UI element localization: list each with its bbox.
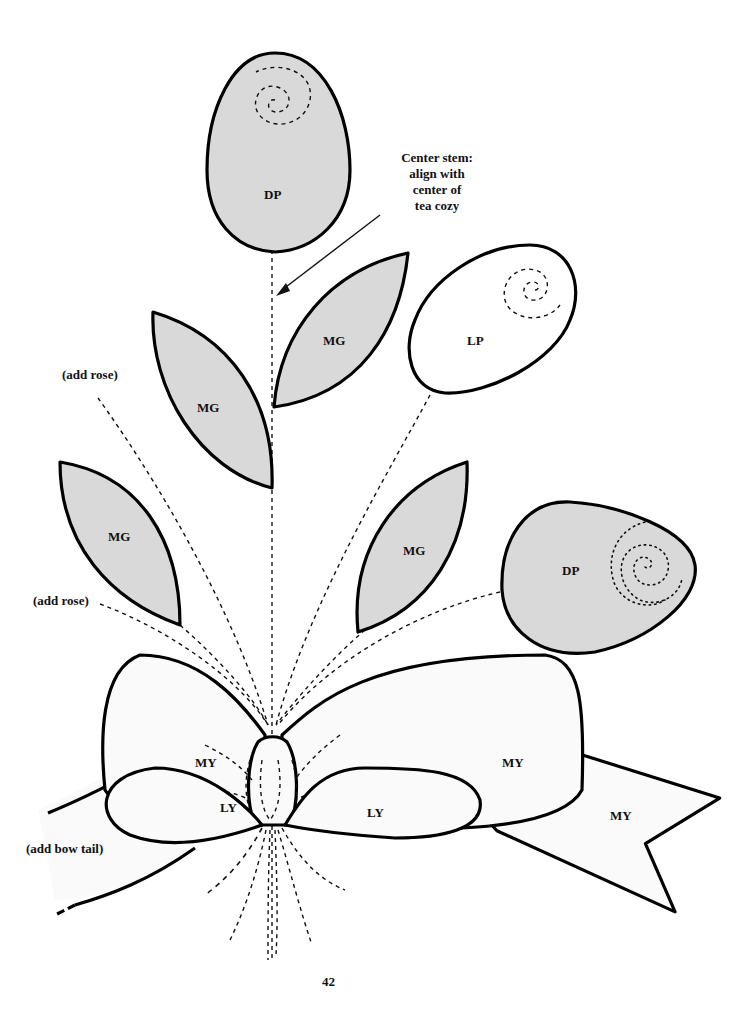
pattern-diagram: DP MG MG LP MG MG DP MY	[0, 0, 740, 1033]
bow-radiating-guides	[205, 828, 345, 960]
page-number: 42	[322, 974, 335, 989]
center-stem-note: Center stem: align with center of tea co…	[401, 150, 473, 213]
svg-text:LP: LP	[467, 333, 484, 348]
add-rose-note-1: (add rose)	[62, 367, 118, 382]
rose-light-lp: LP	[409, 245, 576, 393]
svg-text:MG: MG	[403, 543, 425, 558]
applique-pattern-page: DP MG MG LP MG MG DP MY	[0, 0, 740, 1033]
rose-top-dp: DP	[207, 53, 350, 252]
svg-text:align with: align with	[409, 166, 465, 181]
svg-text:MG: MG	[108, 529, 130, 544]
svg-text:MY: MY	[502, 755, 524, 770]
svg-text:MG: MG	[197, 400, 219, 415]
leaf-upper-right-mg: MG	[274, 253, 408, 407]
svg-text:center of: center of	[413, 182, 462, 197]
svg-text:Center stem:: Center stem:	[401, 150, 473, 165]
rose-right-dp: DP	[502, 502, 695, 653]
svg-text:MG: MG	[323, 333, 345, 348]
leaf-upper-left-mg: MG	[153, 312, 272, 488]
svg-text:tea cozy: tea cozy	[415, 198, 460, 213]
add-bow-tail-note: (add bow tail)	[26, 841, 103, 856]
svg-text:LY: LY	[367, 805, 384, 820]
rose-top-label: DP	[264, 187, 281, 202]
svg-text:MY: MY	[195, 755, 217, 770]
svg-text:MY: MY	[610, 808, 632, 823]
svg-text:LY: LY	[220, 800, 237, 815]
add-rose-note-2: (add rose)	[33, 593, 89, 608]
svg-text:DP: DP	[562, 563, 579, 578]
